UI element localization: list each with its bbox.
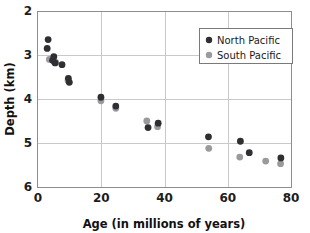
data-point (112, 103, 119, 110)
data-point (237, 138, 244, 145)
data-point (45, 36, 52, 43)
x-tick-label: 60 (219, 191, 236, 205)
x-tick-label: 0 (34, 191, 42, 205)
data-point (98, 94, 105, 101)
legend-marker-south-pacific (206, 52, 212, 58)
y-tick-label: 3 (24, 48, 32, 62)
y-tick-label: 4 (24, 92, 32, 106)
data-point (59, 61, 66, 68)
data-point (277, 155, 284, 162)
legend-label: North Pacific (217, 35, 280, 46)
x-tick-label: 40 (156, 191, 173, 205)
y-tick-label: 5 (24, 136, 32, 150)
y-tick-label: 6 (24, 180, 32, 194)
legend-label: South Pacific (217, 50, 281, 61)
plot-area: 020406080 23456 North PacificSouth Pacif… (0, 0, 310, 233)
data-point (66, 79, 73, 86)
x-tick-label: 20 (93, 191, 110, 205)
x-axis-title: Age (in millions of years) (83, 217, 246, 231)
y-axis-title: Depth (km) (3, 62, 17, 135)
scatter-chart: 020406080 23456 North PacificSouth Pacif… (0, 0, 310, 233)
data-point (262, 158, 269, 165)
x-axis-tick-labels: 020406080 (34, 191, 300, 205)
data-point (145, 124, 152, 131)
legend-marker-north-pacific (206, 37, 212, 43)
y-axis-tick-labels: 23456 (24, 4, 32, 194)
data-point (44, 45, 51, 52)
data-point (155, 120, 162, 127)
chart-legend: North PacificSouth Pacific (200, 29, 293, 64)
data-point (52, 60, 59, 67)
data-point (246, 149, 253, 156)
x-tick-label: 80 (283, 191, 300, 205)
data-point (143, 118, 150, 125)
y-tick-label: 2 (24, 4, 32, 18)
data-point (236, 154, 243, 161)
data-point (205, 145, 212, 152)
data-point (205, 133, 212, 140)
